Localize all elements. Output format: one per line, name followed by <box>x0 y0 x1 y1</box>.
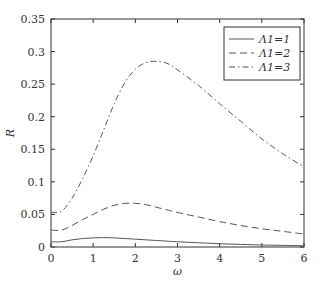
x-tick-label: 6 <box>301 252 308 265</box>
legend-label: Λ1=3 <box>258 61 290 74</box>
y-tick-label: 0.05 <box>21 208 46 221</box>
y-tick-label: 0.15 <box>21 143 46 156</box>
x-axis-label: ω <box>173 265 182 278</box>
x-tick-label: 2 <box>132 252 139 265</box>
y-tick-label: 0 <box>38 241 45 254</box>
series-line-2 <box>51 203 304 234</box>
y-tick-label: 0.2 <box>28 111 46 124</box>
y-tick-label: 0.35 <box>21 13 46 26</box>
legend-label: Λ1=2 <box>258 47 290 60</box>
y-axis-label: R <box>4 129 17 138</box>
y-tick-label: 0.25 <box>21 78 46 91</box>
x-tick-label: 1 <box>90 252 97 265</box>
x-tick-label: 0 <box>48 252 55 265</box>
line-chart: 012345600.050.10.150.20.250.30.35ωRΛ1=1Λ… <box>0 0 324 285</box>
x-tick-label: 5 <box>258 252 265 265</box>
x-tick-label: 3 <box>174 252 181 265</box>
x-tick-label: 4 <box>216 252 223 265</box>
legend-label: Λ1=1 <box>258 33 290 46</box>
series-line-3 <box>51 61 304 212</box>
y-tick-label: 0.3 <box>28 46 46 59</box>
y-tick-label: 0.1 <box>28 176 46 189</box>
